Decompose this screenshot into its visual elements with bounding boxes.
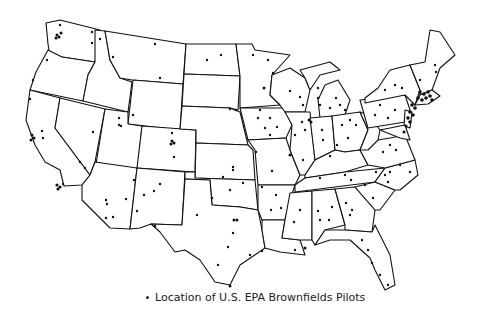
us-map <box>0 0 479 324</box>
legend-label: Location of U.S. EPA Brownfields Pilots <box>155 291 365 304</box>
state-outlines <box>26 20 455 290</box>
map-legend: Location of U.S. EPA Brownfields Pilots <box>146 291 365 304</box>
dot-marker-icon <box>146 296 149 299</box>
